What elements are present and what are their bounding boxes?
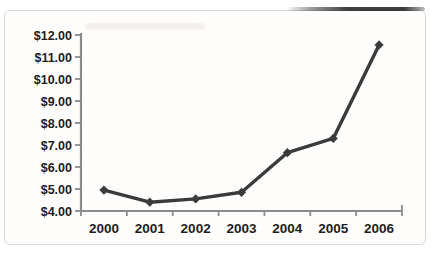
y-tick-label: $7.00: [41, 139, 72, 153]
y-tick-label: $9.00: [41, 95, 72, 109]
price-line-chart: $4.00$5.00$6.00$7.00$8.00$9.00$10.00$11.…: [0, 0, 431, 253]
x-tick-label: 2000: [89, 221, 119, 236]
y-tick-label: $11.00: [34, 51, 72, 65]
chart-panel: $4.00$5.00$6.00$7.00$8.00$9.00$10.00$11.…: [0, 0, 431, 253]
x-tick-label: 2003: [226, 221, 257, 236]
x-tick-label: 2002: [181, 221, 211, 236]
data-point-marker: [99, 186, 108, 195]
axes: [81, 33, 402, 211]
x-tick-label: 2001: [135, 221, 166, 236]
x-tick-label: 2004: [272, 221, 303, 236]
data-point-marker: [145, 198, 154, 207]
y-tick-label: $6.00: [41, 161, 72, 175]
y-tick-label: $12.00: [34, 29, 72, 43]
x-tick-label: 2006: [364, 221, 395, 236]
scan-shadow-artifact: [286, 7, 425, 11]
y-tick-label: $4.00: [41, 205, 72, 219]
x-tick-label: 2005: [318, 221, 349, 236]
y-tick-label: $8.00: [41, 117, 72, 131]
y-tick-label: $5.00: [41, 183, 72, 197]
y-tick-label: $10.00: [34, 73, 72, 87]
data-point-marker: [191, 194, 200, 203]
price-line: [104, 45, 379, 202]
